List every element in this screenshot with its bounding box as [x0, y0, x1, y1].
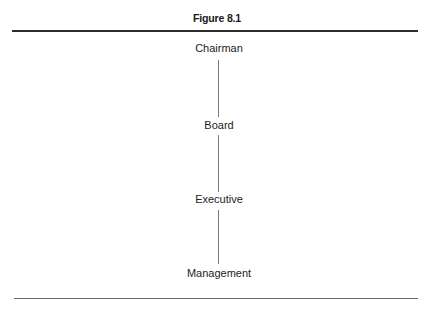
- connector-chairman-board: [218, 60, 219, 117]
- node-executive: Executive: [0, 193, 434, 205]
- node-board: Board: [0, 119, 434, 131]
- connector-board-executive: [218, 135, 219, 192]
- node-management: Management: [0, 267, 434, 279]
- figure-title: Figure 8.1: [17, 12, 416, 24]
- node-chairman: Chairman: [0, 42, 434, 54]
- connector-executive-management: [218, 210, 219, 264]
- top-rule-divider: [12, 30, 418, 32]
- bottom-rule-divider: [14, 298, 418, 299]
